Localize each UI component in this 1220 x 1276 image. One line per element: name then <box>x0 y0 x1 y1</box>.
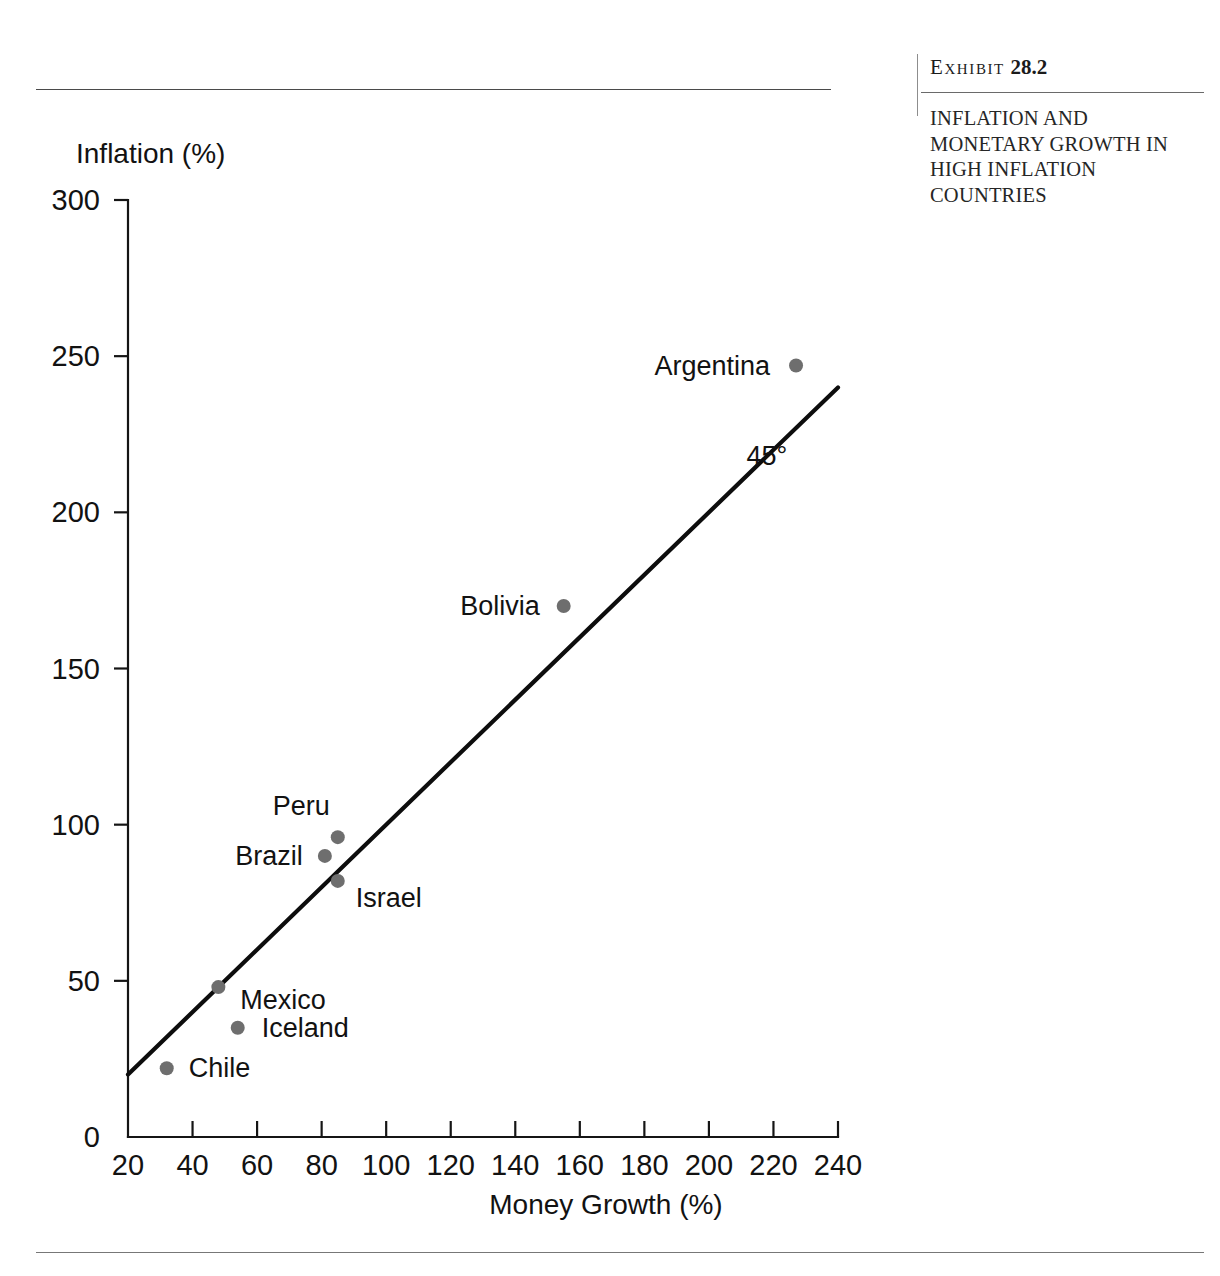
x-tick-label: 20 <box>112 1149 144 1181</box>
x-tick-label: 160 <box>556 1149 604 1181</box>
data-point-label-mexico: Mexico <box>240 985 326 1015</box>
data-point-peru <box>331 830 345 844</box>
y-tick-label: 0 <box>84 1121 100 1153</box>
reference-line-45deg <box>128 387 838 1074</box>
y-tick-label: 50 <box>68 965 100 997</box>
scatter-chart: 0501001502002503002040608010012014016018… <box>0 0 1220 1276</box>
y-tick-label: 250 <box>52 340 100 372</box>
x-tick-label: 140 <box>491 1149 539 1181</box>
data-point-label-argentina: Argentina <box>654 351 771 381</box>
x-axis-title: Money Growth (%) <box>489 1189 722 1220</box>
data-point-label-israel: Israel <box>356 883 422 913</box>
y-tick-label: 200 <box>52 496 100 528</box>
y-axis-title: Inflation (%) <box>76 138 225 169</box>
data-point-brazil <box>318 849 332 863</box>
x-tick-label: 100 <box>362 1149 410 1181</box>
x-tick-label: 220 <box>749 1149 797 1181</box>
x-tick-label: 60 <box>241 1149 273 1181</box>
data-point-label-peru: Peru <box>273 791 330 821</box>
x-tick-label: 180 <box>620 1149 668 1181</box>
x-tick-label: 120 <box>427 1149 475 1181</box>
data-point-bolivia <box>557 599 571 613</box>
data-point-iceland <box>231 1021 245 1035</box>
x-tick-label: 40 <box>176 1149 208 1181</box>
data-point-israel <box>331 874 345 888</box>
data-point-mexico <box>211 980 225 994</box>
data-point-label-brazil: Brazil <box>235 841 303 871</box>
data-point-label-chile: Chile <box>189 1053 251 1083</box>
y-tick-label: 100 <box>52 809 100 841</box>
data-point-label-iceland: Iceland <box>262 1013 349 1043</box>
x-tick-label: 200 <box>685 1149 733 1181</box>
x-tick-label: 80 <box>306 1149 338 1181</box>
data-point-label-bolivia: Bolivia <box>460 591 541 621</box>
x-tick-label: 240 <box>814 1149 862 1181</box>
y-tick-label: 300 <box>52 184 100 216</box>
reference-line-label: 45° <box>747 441 788 471</box>
data-point-chile <box>160 1061 174 1075</box>
data-point-argentina <box>789 359 803 373</box>
y-tick-label: 150 <box>52 653 100 685</box>
